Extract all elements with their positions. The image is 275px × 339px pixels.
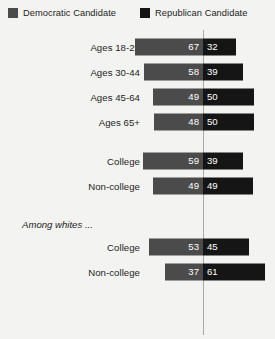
bar-segment-republican: 50 xyxy=(203,113,254,130)
bar-segment-democratic: 58 xyxy=(144,63,203,80)
bar-segment-democratic: 49 xyxy=(153,177,203,194)
bar-value-republican: 50 xyxy=(207,92,218,102)
row-label: Ages 45-64 xyxy=(90,91,140,102)
row-label: Ages 18-29 xyxy=(90,41,140,52)
republican-swatch-icon xyxy=(140,8,150,18)
bar-segment-republican: 45 xyxy=(203,238,249,255)
row-label: Ages 65+ xyxy=(99,116,140,127)
bar-segment-democratic: 48 xyxy=(154,113,203,130)
bar-value-democratic: 67 xyxy=(188,42,199,52)
legend-item-republican: Republican Candidate xyxy=(140,8,247,18)
bar-value-republican: 39 xyxy=(207,67,218,77)
legend-label-republican: Republican Candidate xyxy=(155,8,247,18)
bar-value-republican: 61 xyxy=(207,267,218,277)
bar-value-democratic: 49 xyxy=(188,92,199,102)
bar-segment-democratic: 67 xyxy=(135,38,203,55)
chart-rows: Ages 18-296732Ages 30-445839Ages 45-6449… xyxy=(0,34,275,284)
chart-row: College5345 xyxy=(0,234,275,259)
bar-segment-republican: 61 xyxy=(203,263,265,280)
bar-segment-republican: 32 xyxy=(203,38,236,55)
bar-segment-republican: 39 xyxy=(203,152,243,169)
legend-label-democratic: Democratic Candidate xyxy=(23,8,116,18)
section-note-label: Among whites ... xyxy=(22,219,93,230)
chart-legend: Democratic Candidate Republican Candidat… xyxy=(0,0,275,26)
section-note-among-whites: Among whites ... xyxy=(0,214,275,234)
bar-value-democratic: 37 xyxy=(188,267,199,277)
bar-value-democratic: 53 xyxy=(188,242,199,252)
bar-segment-democratic: 49 xyxy=(153,88,203,105)
chart-row: Ages 30-445839 xyxy=(0,59,275,84)
bar-value-democratic: 48 xyxy=(188,117,199,127)
democratic-swatch-icon xyxy=(8,8,18,18)
bar-segment-republican: 39 xyxy=(203,63,243,80)
row-label: Non-college xyxy=(88,180,140,191)
bar-value-republican: 32 xyxy=(207,42,218,52)
chart-row: Non-college4949 xyxy=(0,173,275,198)
chart-row: Ages 18-296732 xyxy=(0,34,275,59)
chart-row: Ages 65+4850 xyxy=(0,109,275,134)
row-label: Non-college xyxy=(88,266,140,277)
bar-value-democratic: 58 xyxy=(188,67,199,77)
bar-value-democratic: 59 xyxy=(188,156,199,166)
chart-row: College5939 xyxy=(0,148,275,173)
bar-value-republican: 45 xyxy=(207,242,218,252)
legend-item-democratic: Democratic Candidate xyxy=(8,8,116,18)
bar-segment-republican: 49 xyxy=(203,177,253,194)
bar-segment-democratic: 37 xyxy=(165,263,203,280)
bar-segment-republican: 50 xyxy=(203,88,254,105)
chart-row: Ages 45-644950 xyxy=(0,84,275,109)
bar-value-republican: 50 xyxy=(207,117,218,127)
bar-value-republican: 49 xyxy=(207,181,218,191)
bar-value-democratic: 49 xyxy=(188,181,199,191)
chart-row: Non-college3761 xyxy=(0,259,275,284)
row-label: Ages 30-44 xyxy=(90,66,140,77)
bar-segment-democratic: 59 xyxy=(143,152,203,169)
bar-segment-democratic: 53 xyxy=(149,238,203,255)
bar-value-republican: 39 xyxy=(207,156,218,166)
row-label: College xyxy=(107,241,140,252)
row-label: College xyxy=(107,155,140,166)
diverging-bar-chart: Democratic Candidate Republican Candidat… xyxy=(0,0,275,339)
